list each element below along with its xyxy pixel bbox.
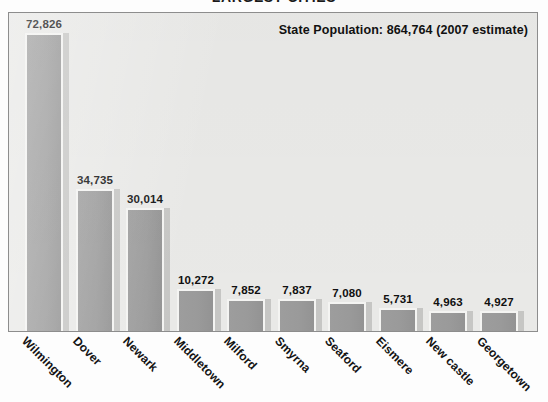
bar-wilmington: 72,826 xyxy=(25,13,63,331)
bar-new-castle: 4,963 xyxy=(429,291,467,331)
x-axis-category-labels: WilmingtonDoverNewarkMiddletownMilfordSm… xyxy=(8,334,538,402)
state-population-annotation: State Population: 864,764 (2007 estimate… xyxy=(279,23,528,37)
bar-seaford: 7,080 xyxy=(328,282,366,331)
x-label-eismere: Eismere xyxy=(373,334,416,377)
x-label-dover: Dover xyxy=(70,334,104,368)
x-label-newark: Newark xyxy=(120,334,161,375)
bar-value-label: 5,731 xyxy=(383,293,412,305)
chart-page: LARGEST CITIES State Population: 864,764… xyxy=(0,0,548,402)
bar-body xyxy=(379,308,417,331)
bar-body xyxy=(480,311,518,331)
x-label-wilmington: Wilmington xyxy=(19,334,76,391)
bar-dover: 34,735 xyxy=(76,169,114,331)
bar-eismere: 5,731 xyxy=(379,288,417,331)
x-label-georgetown: Georgetown xyxy=(474,334,534,394)
plot-area: State Population: 864,764 (2007 estimate… xyxy=(8,12,538,332)
bar-value-label: 7,080 xyxy=(332,287,361,299)
bar-georgetown: 4,927 xyxy=(480,291,518,331)
bar-body xyxy=(177,289,215,331)
x-label-middletown: Middletown xyxy=(171,334,228,391)
bar-body xyxy=(76,189,114,331)
x-label-new-castle: New castle xyxy=(423,334,477,388)
bar-value-label: 34,735 xyxy=(77,174,113,186)
bar-value-label: 4,963 xyxy=(433,296,462,308)
bar-body xyxy=(429,311,467,331)
bar-value-label: 72,826 xyxy=(26,18,62,30)
chart-title-strip: LARGEST CITIES xyxy=(0,0,548,9)
bar-body xyxy=(328,302,366,331)
bar-smyrna: 7,837 xyxy=(278,279,316,331)
bar-value-label: 7,852 xyxy=(231,284,260,296)
x-label-seaford: Seaford xyxy=(322,334,364,376)
bar-value-label: 10,272 xyxy=(178,274,214,286)
page-title: LARGEST CITIES xyxy=(0,0,548,5)
bar-middletown: 10,272 xyxy=(177,269,215,331)
bar-milford: 7,852 xyxy=(227,279,265,331)
bar-body xyxy=(227,299,265,331)
bar-body xyxy=(25,33,63,331)
bar-newark: 30,014 xyxy=(126,188,164,331)
x-label-smyrna: Smyrna xyxy=(272,334,313,375)
bar-body xyxy=(126,208,164,331)
bar-value-label: 4,927 xyxy=(484,296,513,308)
bar-body xyxy=(278,299,316,331)
bar-value-label: 7,837 xyxy=(282,284,311,296)
x-label-milford: Milford xyxy=(221,334,260,373)
bar-value-label: 30,014 xyxy=(127,193,163,205)
